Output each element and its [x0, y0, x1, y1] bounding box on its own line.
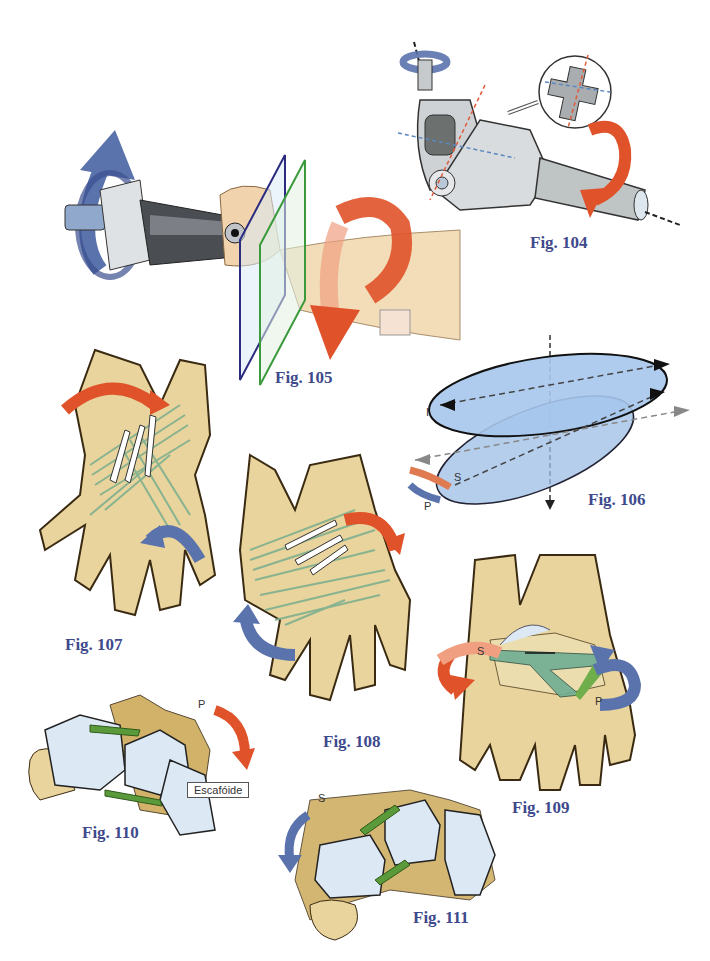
- figure-caption: Fig. 104: [530, 233, 588, 253]
- figure-caption: Fig. 111: [413, 908, 469, 928]
- figure-109: S P Fig. 109: [430, 545, 660, 820]
- carpal-row-pronation-illustration: [20, 690, 290, 850]
- figure-caption: Fig. 108: [323, 732, 381, 752]
- figure-110: P Escafóide Fig. 110: [20, 690, 290, 850]
- pronation-label: P: [595, 695, 602, 707]
- carpus-ligaments-dorsal: [30, 345, 230, 655]
- supination-label: S: [454, 471, 461, 483]
- figure-caption: Fig. 106: [588, 490, 646, 510]
- figure-107: Fig. 107: [30, 345, 230, 655]
- figure-111: S Fig. 111: [270, 780, 530, 950]
- supination-label: S: [318, 792, 325, 804]
- supination-label: S: [477, 645, 484, 657]
- ellipsoid-surfaces-illustration: [400, 335, 700, 520]
- figure-caption: Fig. 107: [65, 635, 123, 655]
- carpal-row-supination-illustration: [270, 780, 530, 950]
- pronation-label: P: [424, 500, 431, 512]
- axis-label-i: I: [426, 406, 429, 418]
- figure-caption: Fig. 110: [82, 823, 139, 843]
- carpus-rotation-illustration: [430, 545, 660, 820]
- figure-106: I S P Fig. 106: [400, 335, 700, 520]
- scaphoid-callout: Escafóide: [187, 782, 249, 798]
- figure-caption: Fig. 105: [275, 368, 333, 388]
- pronation-label: P: [198, 698, 205, 710]
